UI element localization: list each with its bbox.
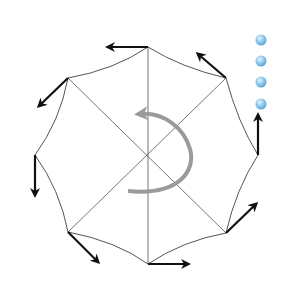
dot-icon: [256, 99, 267, 110]
force-arrow-top-left: [39, 78, 68, 106]
dot-icon: [256, 77, 267, 88]
force-arrow-bottom-right: [226, 204, 256, 233]
dot-icon: [256, 56, 267, 67]
octagon-force-diagram: [0, 0, 297, 297]
dots-column: [256, 35, 267, 110]
spokes: [68, 47, 226, 264]
dot-icon: [256, 35, 267, 46]
rotation-arrow-icon: [128, 114, 191, 192]
force-arrow-bottom-left: [68, 232, 98, 262]
